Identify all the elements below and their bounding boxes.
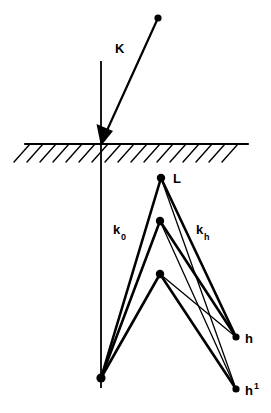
incident-beam-line [104,18,158,137]
hatch-mark [144,144,160,162]
hatch-mark [27,144,43,162]
label-exit-point-h: h [245,331,253,346]
hatch-mark [53,144,69,162]
ray-low-to-hprime [160,274,236,389]
label-h-prime-base: h [245,383,253,398]
ray-L-to-h [161,178,236,337]
hatch-mark [105,144,121,162]
hatch-mark [157,144,173,162]
label-top-vertex-L: L [173,171,181,186]
hatch-mark [170,144,186,162]
hatch-mark [40,144,56,162]
surface-hatching-group [14,144,238,162]
label-kh-base: k [196,222,204,237]
hatch-mark [209,144,225,162]
incident-beam-arrowhead [97,124,114,146]
label-exit-point-h-prime: h 1 [245,381,259,398]
label-internal-beam-k0: k 0 [113,222,126,242]
hatch-mark [14,144,30,162]
hatch-mark [222,144,238,162]
hatch-mark [118,144,134,162]
vertex-L-dot [157,174,165,182]
hatch-mark [79,144,95,162]
vertex-low-dot [156,270,164,278]
figure-canvas: K L k 0 k h h h 1 [0,0,271,413]
label-k0-subscript: 0 [121,232,126,242]
exit-point-h-dot [232,333,239,340]
hatch-mark [131,144,147,162]
incident-source-dot [154,14,161,21]
ray-origin-to-L [101,178,161,378]
origin-bottom-dot [96,373,105,382]
label-k0-base: k [113,222,121,237]
hatch-mark [92,144,108,162]
ray-origin-to-low [101,274,160,378]
ray-mid-to-h [160,221,236,337]
ray-origin-to-mid [101,221,160,378]
hatch-mark [196,144,212,162]
label-kh-subscript: h [204,232,210,242]
hatch-mark [66,144,82,162]
label-incident-beam-K: K [115,41,125,56]
ray-network [101,178,236,389]
hatch-mark [183,144,199,162]
label-h-prime-superscript: 1 [254,381,259,391]
diffraction-diagram: K L k 0 k h h h 1 [0,0,271,413]
label-internal-beam-kh: k h [196,222,210,242]
exit-point-h1-dot [232,385,239,392]
vertex-mid-dot [156,217,164,225]
